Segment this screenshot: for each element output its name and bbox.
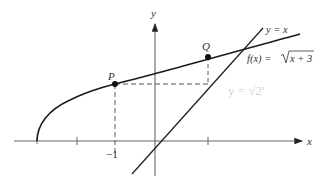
x-axis-label: x — [306, 135, 312, 147]
point-q — [205, 54, 211, 60]
identity-line-label: y = x — [265, 24, 288, 35]
sqrt-label-radicand: x + 3 — [289, 53, 312, 64]
tick-label-neg-one: −1 — [106, 148, 118, 160]
sqrt-curve-label: f(x) = x + 3 — [247, 51, 314, 65]
function-diagram: y = √2' y x P Q −1 y = x f(x) = x + 3 — [0, 0, 318, 177]
point-q-label: Q — [202, 40, 210, 52]
sqrt-label-prefix: f(x) = — [247, 53, 271, 65]
handwritten-note: y = √2' — [228, 83, 264, 98]
point-p-label: P — [107, 70, 115, 82]
y-axis-label: y — [150, 7, 156, 19]
